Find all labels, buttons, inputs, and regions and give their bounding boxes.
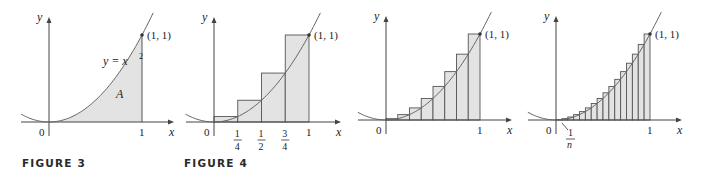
shaded-area [49, 35, 142, 122]
origin-label: 0 [546, 124, 552, 136]
x-axis-label: x [168, 125, 175, 139]
tick-numerator: 3 [282, 128, 287, 139]
width-label-denominator: n [567, 139, 572, 150]
approximating-rectangle [632, 54, 638, 120]
point-1-1 [140, 33, 144, 37]
x-one-label: 1 [306, 126, 312, 138]
x-axis-arrow-icon [676, 118, 682, 123]
x-one-label: 1 [139, 126, 145, 138]
x-one-label: 1 [477, 124, 483, 136]
approximating-rectangle [644, 34, 650, 120]
y-axis-label: y [36, 10, 43, 24]
x-axis-arrow-icon [335, 120, 341, 125]
y-axis-label: y [373, 9, 380, 23]
tick-numerator: 1 [235, 128, 240, 139]
approximating-rectangle [627, 63, 633, 120]
tick-denominator: 2 [259, 141, 264, 152]
diagram-canvas: yx01(1, 1)y = x2Ayx01(1, 1)141234yx01(1,… [0, 0, 702, 177]
point-1-1 [307, 33, 311, 37]
point-label: (1, 1) [147, 29, 171, 42]
approximating-rectangle [285, 35, 309, 122]
x-axis-arrow-icon [506, 118, 512, 123]
approximating-rectangle [433, 86, 445, 120]
x-axis-arrow-icon [168, 120, 174, 125]
y-axis-label: y [543, 9, 550, 23]
figure-4-caption: FIGURE 4 [184, 157, 248, 169]
point-1-1 [478, 32, 482, 36]
x-axis-label: x [506, 123, 513, 137]
figure-5b: yx01(1, 1)1n [528, 9, 683, 150]
area-label: A [115, 87, 124, 101]
approximating-rectangle [421, 99, 433, 121]
y-axis-arrow-icon [47, 17, 52, 23]
point-label: (1, 1) [485, 28, 509, 41]
figure-3: yx01(1, 1)y = x2A [21, 10, 175, 139]
point-label: (1, 1) [314, 29, 338, 42]
approximating-rectangle [468, 34, 480, 120]
y-axis-arrow-icon [384, 16, 389, 22]
y-axis-arrow-icon [212, 17, 217, 23]
curve-equation-label: y = x [102, 54, 128, 68]
approximating-rectangle [603, 93, 609, 120]
x-axis-label: x [676, 123, 683, 137]
figure-4: yx01(1, 1)141234 [186, 10, 343, 152]
figure-3-caption: FIGURE 3 [22, 157, 86, 169]
tick-denominator: 4 [235, 141, 240, 152]
point-label: (1, 1) [655, 28, 679, 41]
y-axis-arrow-icon [554, 16, 559, 22]
x-axis-label: x [335, 125, 342, 139]
figure-stage: yx01(1, 1)y = x2Ayx01(1, 1)141234yx01(1,… [0, 0, 702, 177]
approximating-rectangle [214, 117, 238, 122]
approximating-rectangle [638, 44, 644, 120]
figure-5a: yx01(1, 1) [358, 9, 513, 137]
y-axis-label: y [201, 10, 208, 24]
width-label-numerator: 1 [568, 127, 573, 138]
tick-numerator: 1 [259, 128, 264, 139]
x-one-label: 1 [647, 124, 653, 136]
origin-label: 0 [204, 126, 210, 138]
curve-exponent: 2 [139, 52, 143, 61]
origin-label: 0 [376, 124, 382, 136]
tick-denominator: 4 [282, 141, 287, 152]
origin-label: 0 [39, 126, 45, 138]
point-1-1 [648, 32, 652, 36]
